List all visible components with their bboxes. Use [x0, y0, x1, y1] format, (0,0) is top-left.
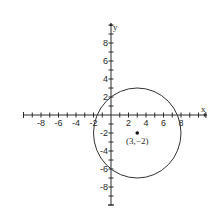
- x-tick-label: -8: [37, 118, 45, 128]
- y-tick-label: -4: [100, 146, 108, 156]
- x-tick-label: -6: [54, 118, 62, 128]
- y-axis-label: y: [113, 22, 118, 32]
- center-point: [135, 131, 139, 135]
- x-tick-label: 6: [161, 118, 166, 128]
- x-tick-label: 2: [126, 118, 131, 128]
- y-tick-label: 6: [103, 56, 108, 66]
- y-tick-label: -2: [100, 128, 108, 138]
- y-tick-label: 8: [103, 38, 108, 48]
- y-tick-label: 4: [103, 74, 108, 84]
- points: (3,−2): [126, 131, 148, 146]
- y-tick-label: -8: [100, 182, 108, 192]
- x-axis-label: x: [201, 104, 206, 114]
- coordinate-plane: x y -8-6-4-22468 8642-2-4-6-8 (3,−2): [0, 0, 218, 224]
- x-tick-label: -4: [72, 118, 80, 128]
- x-tick-labels: -8-6-4-22468: [37, 118, 184, 128]
- center-point-label: (3,−2): [126, 136, 148, 146]
- x-tick-label: 4: [143, 118, 148, 128]
